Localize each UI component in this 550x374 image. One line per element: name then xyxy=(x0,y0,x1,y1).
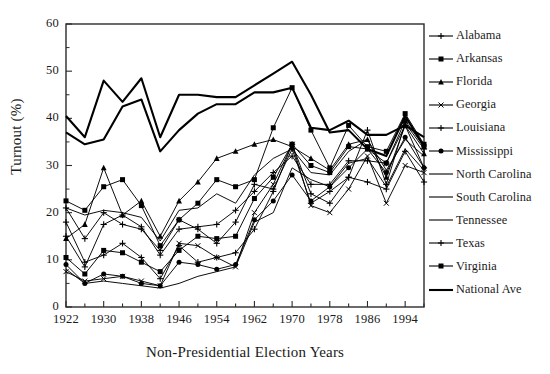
y-tick-label: 10 xyxy=(33,252,59,267)
legend-item-label: Texas xyxy=(454,236,485,251)
legend-item-label: Virginia xyxy=(454,259,497,274)
axis-ticks xyxy=(66,24,424,307)
thick-line-marker xyxy=(428,283,454,297)
legend-item-label: Tennessee xyxy=(454,213,507,228)
series-south-carolina xyxy=(66,149,424,288)
line-marker xyxy=(428,190,454,204)
triangle-marker xyxy=(428,75,454,89)
legend-item-label: Alabama xyxy=(454,28,501,43)
legend-item[interactable]: Arkansas xyxy=(428,47,550,70)
legend-item-label: National Ave xyxy=(454,282,522,297)
square-marker xyxy=(428,52,454,66)
legend-item-label: Georgia xyxy=(454,97,496,112)
x-marker xyxy=(428,98,454,112)
y-tick-label: 40 xyxy=(33,110,59,125)
plot-frame xyxy=(66,24,424,307)
series-north-carolina xyxy=(66,140,424,241)
line-marker xyxy=(428,167,454,181)
chart-figure: Turnout (%) Non-Presidential Election Ye… xyxy=(0,0,550,374)
legend-item[interactable]: Virginia xyxy=(428,255,550,278)
legend-item[interactable]: Florida xyxy=(428,70,550,93)
y-tick-label: 60 xyxy=(33,16,59,31)
legend-item[interactable]: Mississippi xyxy=(428,139,550,162)
line-marker xyxy=(428,213,454,227)
legend-item[interactable]: Texas xyxy=(428,232,550,255)
legend-item[interactable]: Tennessee xyxy=(428,209,550,232)
legend-item[interactable]: National Ave xyxy=(428,278,550,301)
plus-marker xyxy=(428,121,454,135)
plus-marker xyxy=(428,236,454,250)
legend-item-label: Louisiana xyxy=(454,120,505,135)
y-tick-label: 20 xyxy=(33,205,59,220)
legend-item[interactable]: North Carolina xyxy=(428,163,550,186)
legend-item[interactable]: South Carolina xyxy=(428,186,550,209)
plus-marker xyxy=(428,29,454,43)
legend-item[interactable]: Alabama xyxy=(428,24,550,47)
legend-item-label: South Carolina xyxy=(454,190,532,205)
square-marker xyxy=(428,259,454,273)
circle-marker xyxy=(428,144,454,158)
y-axis-label: Turnout (%) xyxy=(8,77,25,197)
legend-item-label: Arkansas xyxy=(454,51,503,66)
legend-item-label: North Carolina xyxy=(454,167,532,182)
series-texas xyxy=(63,146,427,254)
y-tick-label: 50 xyxy=(33,63,59,78)
series-mississippi xyxy=(64,135,427,289)
data-series-group xyxy=(63,62,427,289)
x-axis-label: Non-Presidential Election Years xyxy=(66,344,424,361)
legend-item-label: Mississippi xyxy=(454,144,513,159)
legend-item[interactable]: Georgia xyxy=(428,93,550,116)
y-tick-label: 30 xyxy=(33,158,59,173)
y-tick-label: 0 xyxy=(33,299,59,314)
legend-item[interactable]: Louisiana xyxy=(428,116,550,139)
chart-legend: AlabamaArkansasFloridaGeorgiaLouisianaMi… xyxy=(428,24,550,301)
legend-item-label: Florida xyxy=(454,74,492,89)
x-tick-label: 1994 xyxy=(382,312,428,327)
series-georgia xyxy=(64,142,427,289)
